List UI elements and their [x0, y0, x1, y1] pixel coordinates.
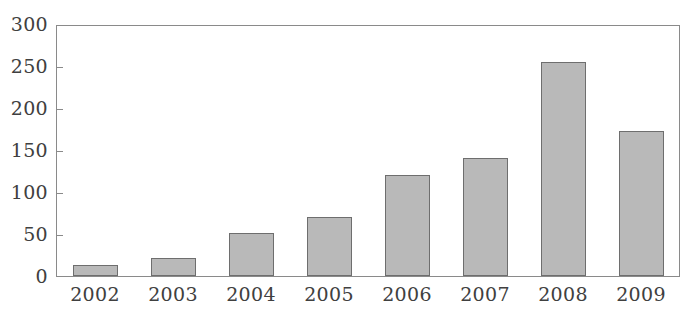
x-axis-tick-label-2002: 2002 — [56, 282, 134, 306]
y-axis-tick-label: 250 — [0, 57, 48, 76]
x-axis-tick-label-2006: 2006 — [368, 282, 446, 306]
x-axis-tick-label-2007: 2007 — [446, 282, 524, 306]
y-axis-tick-label: 150 — [0, 141, 48, 160]
y-axis-tick-label: 0 — [0, 267, 48, 286]
x-axis-tick-label-2004: 2004 — [212, 282, 290, 306]
x-axis-tick-label-2003: 2003 — [134, 282, 212, 306]
bar-2003 — [151, 258, 196, 276]
y-axis-tick-label: 100 — [0, 183, 48, 202]
x-axis-tick-label-2009: 2009 — [602, 282, 680, 306]
x-axis-labels: 20022003200420052006200720082009 — [56, 282, 680, 311]
bar-2004 — [229, 233, 274, 276]
bar-2002 — [73, 265, 118, 276]
bar-2008 — [541, 62, 586, 276]
x-axis-tick-label-2008: 2008 — [524, 282, 602, 306]
bar-chart: 050100150200250300 200220032004200520062… — [0, 0, 695, 311]
bar-2006 — [385, 175, 430, 276]
y-axis-tick-label: 300 — [0, 15, 48, 34]
y-axis-labels: 050100150200250300 — [0, 0, 48, 311]
x-axis-tick-label-2005: 2005 — [290, 282, 368, 306]
y-axis-tick-label: 200 — [0, 99, 48, 118]
y-axis-tick-label: 50 — [0, 225, 48, 244]
bar-2009 — [619, 131, 664, 276]
bar-2005 — [307, 217, 352, 276]
bars-layer — [57, 26, 679, 276]
bar-2007 — [463, 158, 508, 276]
